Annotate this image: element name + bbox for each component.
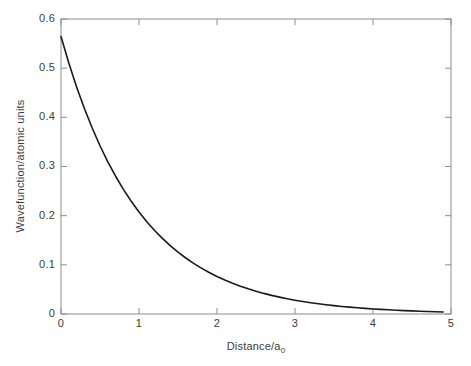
x-tick-labels: 012345 <box>58 317 454 329</box>
y-tick-label: 0.1 <box>39 258 55 270</box>
x-axis-label-subscript: 0 <box>281 346 286 355</box>
x-axis-label: Distance/a0 <box>227 340 286 352</box>
axis-tick-marks <box>61 19 451 314</box>
figure: 012345 00.10.20.30.40.50.6 Wavefunction/… <box>0 0 471 366</box>
wavefunction-curve <box>61 37 443 312</box>
plot-canvas: 012345 00.10.20.30.40.50.6 <box>0 0 471 366</box>
y-axis-label: Wavefunction/atomic units <box>14 100 26 233</box>
x-tick-label: 3 <box>292 317 298 329</box>
y-tick-label: 0.4 <box>39 110 55 122</box>
plot-box <box>61 19 451 314</box>
x-tick-label: 1 <box>136 317 142 329</box>
x-tick-label: 2 <box>214 317 220 329</box>
x-tick-label: 4 <box>370 317 376 329</box>
y-tick-labels: 00.10.20.30.40.50.6 <box>39 12 55 319</box>
x-axis-label-text: Distance/a <box>227 340 281 352</box>
y-tick-label: 0.5 <box>39 61 55 73</box>
x-tick-label: 5 <box>448 317 454 329</box>
x-tick-label: 0 <box>58 317 64 329</box>
y-tick-label: 0 <box>49 307 55 319</box>
y-tick-label: 0.3 <box>39 159 55 171</box>
y-tick-label: 0.2 <box>39 209 55 221</box>
y-tick-label: 0.6 <box>39 12 55 24</box>
